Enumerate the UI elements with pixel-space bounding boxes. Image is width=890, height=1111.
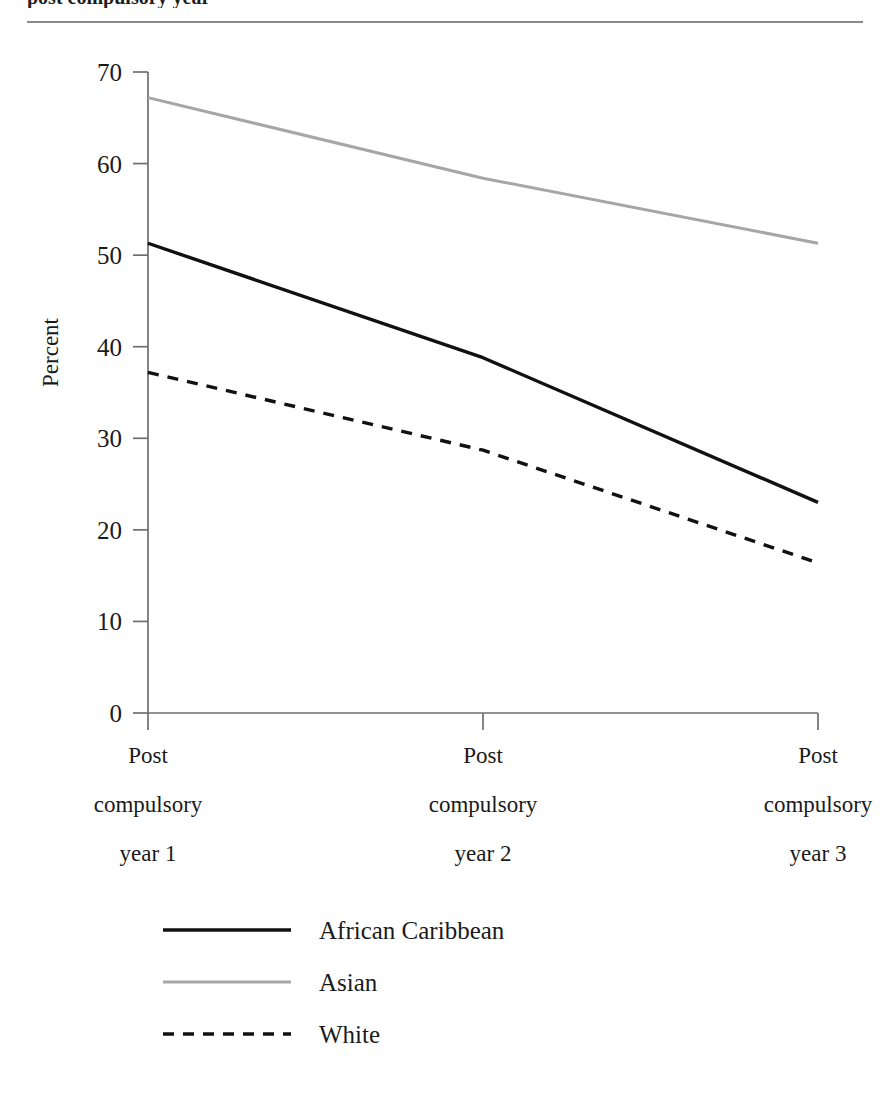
- x-tick-label-2-line-2: compulsory: [429, 792, 538, 817]
- x-tick-label-1-line-1: Post: [128, 743, 168, 768]
- y-tick-label-0: 0: [110, 700, 123, 727]
- series-line-african-caribbean: [148, 243, 818, 502]
- y-tick-label-70: 70: [97, 59, 122, 86]
- series-line-asian: [148, 98, 818, 244]
- series-line-white: [148, 372, 818, 562]
- y-tick-label-30: 30: [97, 425, 122, 452]
- line-chart: 010203040506070 Postcompulsoryyear 1Post…: [0, 0, 890, 1111]
- x-tick-labels: Postcompulsoryyear 1Postcompulsoryyear 2…: [94, 743, 873, 866]
- y-tick-label-20: 20: [97, 517, 122, 544]
- legend-label-asian: Asian: [319, 969, 378, 996]
- series-group: [148, 98, 818, 563]
- axes-group: [133, 72, 818, 730]
- x-tick-label-2-line-1: Post: [463, 743, 503, 768]
- x-tick-label-3-line-2: compulsory: [764, 792, 873, 817]
- legend-label-white: White: [319, 1021, 380, 1048]
- x-tick-label-2-line-3: year 2: [455, 841, 512, 866]
- y-tick-label-50: 50: [97, 242, 122, 269]
- y-axis-title-text: Percent: [38, 317, 63, 387]
- axis-spine: [148, 72, 818, 713]
- y-axis-title: Percent: [38, 317, 63, 387]
- y-tick-labels: 010203040506070: [97, 59, 122, 727]
- legend: African CaribbeanAsianWhite: [163, 917, 505, 1048]
- x-tick-label-3-line-1: Post: [798, 743, 838, 768]
- y-tick-label-10: 10: [97, 608, 122, 635]
- x-tick-label-3-line-3: year 3: [790, 841, 847, 866]
- legend-label-african-caribbean: African Caribbean: [319, 917, 505, 944]
- y-tick-label-40: 40: [97, 334, 122, 361]
- figure-container: post compulsory year 010203040506070 Pos…: [0, 0, 890, 1111]
- x-tick-label-1-line-3: year 1: [120, 841, 177, 866]
- y-tick-label-60: 60: [97, 151, 122, 178]
- x-tick-label-1-line-2: compulsory: [94, 792, 203, 817]
